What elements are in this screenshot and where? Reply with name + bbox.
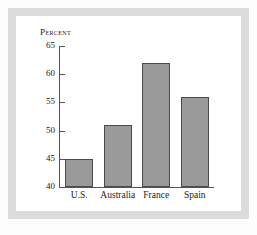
x-axis-label: Spain bbox=[176, 190, 215, 200]
bar bbox=[65, 159, 93, 187]
chart-screenshot: Percent 656055504540 U.S.AustraliaFrance… bbox=[0, 0, 257, 235]
y-tick-label: 50 bbox=[46, 125, 55, 135]
y-tick-label: 45 bbox=[46, 153, 55, 163]
bar-chart: Percent 656055504540 U.S.AustraliaFrance… bbox=[16, 16, 241, 211]
x-axis-labels: U.S.AustraliaFranceSpain bbox=[60, 188, 214, 204]
y-tick-label: 65 bbox=[46, 40, 55, 50]
y-tick-label: 40 bbox=[46, 181, 55, 191]
bar bbox=[142, 63, 170, 187]
x-axis-label: U.S. bbox=[60, 190, 99, 200]
plot-area: 656055504540 U.S.AustraliaFranceSpain bbox=[59, 46, 214, 188]
x-axis-label: France bbox=[137, 190, 176, 200]
chart-title: Percent bbox=[40, 27, 71, 37]
y-tick-label: 60 bbox=[46, 68, 55, 78]
bar bbox=[104, 125, 132, 187]
bar bbox=[181, 97, 209, 187]
bar-series bbox=[60, 46, 214, 187]
y-tick-label: 55 bbox=[46, 96, 55, 106]
x-axis-label: Australia bbox=[99, 190, 138, 200]
